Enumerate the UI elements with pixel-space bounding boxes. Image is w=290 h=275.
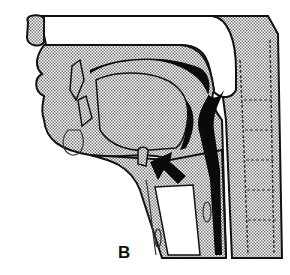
tongue (96, 73, 188, 150)
vocal-tract-diagram (0, 0, 290, 275)
hyoid (138, 147, 148, 166)
panel-label: B (118, 243, 130, 263)
nose (27, 15, 44, 45)
